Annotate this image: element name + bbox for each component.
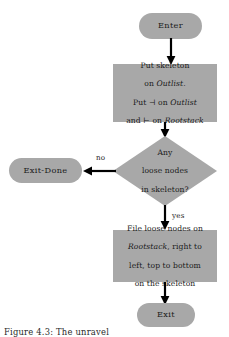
node-decision-label: Any loose nodes in skeleton? [141, 139, 188, 203]
node-enter[interactable]: Enter [139, 13, 202, 39]
decision-line-2: loose nodes [141, 166, 188, 175]
node-file-line-2: Rootstack, right to [127, 242, 203, 251]
node-enter-label: Enter [158, 21, 183, 30]
node-exit-label: Exit [157, 310, 175, 319]
node-decision-diamond[interactable]: Any loose nodes in skeleton? [113, 136, 217, 206]
decision-line-1: Any [141, 148, 188, 157]
node-file-process[interactable]: File loose nodes on Rootstack, right to … [113, 230, 217, 282]
node-init-line-3: Put ⊣ on Outlist [126, 98, 204, 107]
node-file-line-1: File loose nodes on [127, 224, 203, 233]
node-init-line-1: Put skeleton [126, 61, 204, 70]
node-init-line-2: on Outlist. [126, 79, 204, 88]
connector-decision-to-exit-done [82, 164, 116, 178]
arrow-left-icon [82, 164, 116, 178]
left-tack-symbol: ⊣ [149, 98, 156, 107]
decision-line-3: in skeleton? [141, 185, 188, 194]
figure-caption: Figure 4.3: The unravel [4, 327, 225, 337]
edge-label-no: no [96, 154, 105, 162]
node-file-line-3: left, top to bottom [127, 261, 203, 270]
right-tack-symbol: ⊢ [143, 116, 150, 125]
node-exit-done-label: Exit-Done [23, 166, 67, 175]
node-exit-done[interactable]: Exit-Done [9, 158, 82, 183]
node-init-process[interactable]: Put skeleton on Outlist. Put ⊣ on Outlis… [113, 64, 217, 122]
node-exit[interactable]: Exit [137, 303, 195, 327]
